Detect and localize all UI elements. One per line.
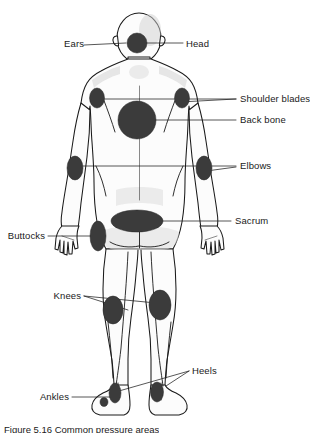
label-sacrum: Sacrum (235, 215, 268, 226)
hand-left-outline (55, 226, 79, 255)
hand-right-outline (200, 226, 224, 255)
pressure-spot-sacrum (111, 210, 163, 232)
pressure-spot-knee-right (149, 290, 171, 320)
pressure-spot-buttock-left (90, 221, 106, 251)
label-buttocks: Buttocks (0, 230, 45, 241)
label-ears: Ears (50, 38, 84, 49)
pressure-spot-back-bone (118, 101, 156, 139)
label-shoulder-blades: Shoulder blades (240, 93, 310, 104)
label-knees: Knees (38, 290, 81, 301)
ear-right-outline (159, 36, 165, 46)
pressure-spot-elbow-left (67, 156, 83, 180)
pressure-spot-shoulder-right (175, 88, 190, 108)
pressure-spot-ankle-left (100, 398, 108, 407)
figure-caption: Figure 5.16 Common pressure areas (4, 424, 159, 433)
pressure-spot-head (127, 33, 147, 53)
figure-root: Ears Head Shoulder blades Back bone Elbo… (0, 0, 310, 433)
neck-shading (129, 65, 149, 79)
pressure-spot-heel-left (109, 383, 121, 403)
label-heels: Heels (192, 365, 217, 376)
pressure-spot-shoulder-left (90, 88, 105, 108)
ear-left-outline (113, 36, 119, 46)
label-ankles: Ankles (26, 391, 69, 402)
label-back-bone: Back bone (240, 114, 286, 125)
label-head: Head (186, 38, 209, 49)
label-elbows: Elbows (240, 160, 271, 171)
pressure-spot-heel-right (151, 382, 164, 402)
pressure-spot-elbow-right (196, 156, 212, 180)
pressure-spot-knee-left (103, 296, 123, 324)
